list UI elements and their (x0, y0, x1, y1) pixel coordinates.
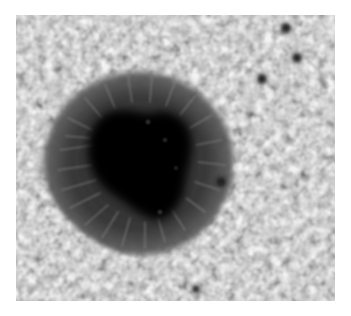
pore (257, 74, 267, 84)
sunspot-image (16, 15, 335, 301)
pore (216, 177, 226, 187)
sunspot-figure (16, 15, 335, 301)
pore (281, 23, 291, 33)
pore (192, 285, 200, 293)
pore (292, 53, 302, 63)
